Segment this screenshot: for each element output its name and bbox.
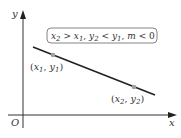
x-axis-label: x bbox=[169, 117, 175, 128]
point-2-marker bbox=[132, 85, 137, 90]
y-axis-arrow-icon bbox=[20, 10, 26, 19]
diagram-canvas: y x O x2 > x1, y2 < y1, m < 0 (x1, y1) (… bbox=[0, 0, 181, 138]
point-1-marker bbox=[51, 53, 56, 58]
point-2-label: (x2, y2) bbox=[111, 93, 144, 106]
origin-label: O bbox=[11, 117, 19, 128]
point-1-label: (x1, y1) bbox=[30, 61, 63, 74]
y-axis-label: y bbox=[11, 8, 18, 19]
